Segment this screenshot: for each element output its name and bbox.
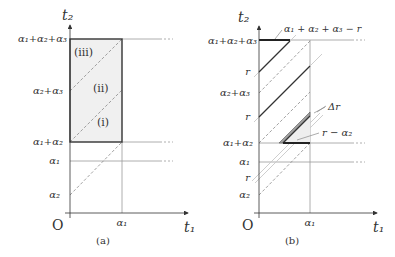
region-i-label: (i) [97, 116, 109, 129]
tick-a1: α₁ [239, 156, 250, 167]
y-axis-label: t₂ [238, 9, 250, 25]
top-annotation: α₁ + α₂ + α₃ − r [284, 23, 363, 34]
y-axis-label: t₂ [62, 7, 74, 23]
r-guide-lines [252, 35, 323, 183]
origin-label: O [52, 217, 63, 233]
tick-r-lower: r [245, 172, 251, 183]
diagram-canvas: t₂ t₁ O α₁+α₂+α₃ α₂+α₃ α₁+α₂ α₁ α₂ α₁ (i… [0, 0, 395, 257]
x-axis-label: t₁ [373, 219, 384, 235]
delta-r-label: Δr [327, 101, 341, 112]
tick-a1: α₁ [49, 155, 60, 166]
x-tick-a1: α₁ [305, 217, 316, 228]
origin-label: O [242, 217, 253, 233]
tick-r-mid: r [245, 111, 251, 122]
region-ii-label: (ii) [93, 82, 109, 95]
region-iii-label: (iii) [74, 46, 93, 59]
tick-a1-a2: α₁+α₂ [223, 137, 253, 148]
top-annotation-leader [275, 30, 282, 39]
caption-a: (a) [96, 235, 110, 246]
x-axis-label: t₁ [184, 219, 195, 235]
caption-b: (b) [285, 235, 299, 246]
tick-a1-a2: α₁+α₂ [33, 136, 63, 147]
tick-r-upper: r [245, 66, 251, 77]
x-tick-a1: α₁ [117, 217, 128, 228]
tick-a2: α₂ [49, 189, 60, 200]
tick-a1-a2-a3: α₁+α₂+α₃ [208, 35, 257, 46]
panel-b: t₂ t₁ O α₁+α₂+α₃ r α₂+α₃ r α₁+α₂ α₁ r α₂… [208, 9, 384, 246]
solid-diagonals [259, 41, 310, 117]
tick-a2-a3: α₂+α₃ [33, 85, 63, 96]
tick-a2: α₂ [239, 189, 250, 200]
panel-a: t₂ t₁ O α₁+α₂+α₃ α₂+α₃ α₁+α₂ α₁ α₂ α₁ (i… [18, 7, 195, 246]
tick-a1-a2-a3: α₁+α₂+α₃ [18, 33, 67, 44]
delta-r-leader-2 [317, 106, 326, 112]
tick-a2-a3: α₂+α₃ [220, 87, 250, 98]
r-minus-a2-label: r − α₂ [322, 127, 352, 138]
